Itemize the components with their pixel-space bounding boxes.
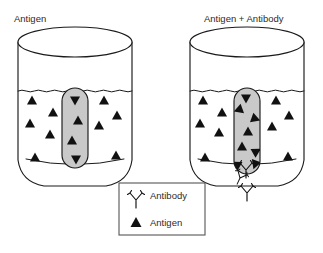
figure-canvas: Antigen Antigen + Antibody (0, 0, 323, 253)
legend-item-label-antibody: Antibody (150, 190, 187, 201)
vessel-right-rim (190, 27, 304, 57)
panel-left-title: Antigen (14, 13, 46, 24)
vessel-left-rim (18, 27, 132, 57)
legend-item-label-antigen: Antigen (150, 217, 182, 228)
panel-left: Antigen (14, 13, 132, 186)
legend: Antibody Antigen (119, 183, 205, 235)
panel-right: Antigen + Antibody (190, 13, 304, 201)
panel-right-title: Antigen + Antibody (204, 13, 284, 24)
immunodiffusion-figure: Antigen Antigen + Antibody (0, 0, 323, 253)
